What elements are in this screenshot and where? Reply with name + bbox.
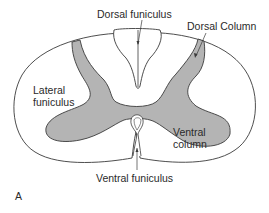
label-ventral-funiculus: Ventral funiculus xyxy=(96,172,173,184)
label-lateral-funiculus-line2: funiculus xyxy=(33,96,74,108)
panel-label: A xyxy=(15,190,22,202)
label-lateral-funiculus-line1: Lateral xyxy=(33,84,65,96)
label-ventral-column-line1: Ventral xyxy=(173,126,206,138)
label-dorsal-funiculus: Dorsal funiculus xyxy=(97,8,172,20)
label-dorsal-column: Dorsal Column xyxy=(187,20,256,32)
label-ventral-column-line2: column xyxy=(173,138,207,150)
